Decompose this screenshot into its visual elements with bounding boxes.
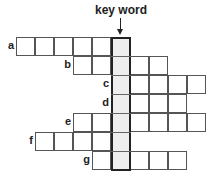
key-cell-divider [111, 151, 131, 152]
key-cell-divider [111, 94, 131, 95]
row-label: a [2, 39, 14, 51]
grid-cell[interactable] [130, 94, 149, 113]
grid-cell[interactable] [92, 56, 111, 75]
grid-cell[interactable] [73, 113, 92, 132]
key-cell-divider [111, 75, 131, 76]
grid-cell[interactable] [130, 75, 149, 94]
grid-cell[interactable] [92, 151, 111, 170]
grid-cell[interactable] [35, 37, 54, 56]
row-label: g [78, 153, 90, 165]
grid-cell[interactable] [130, 56, 149, 75]
grid-cell[interactable] [73, 132, 92, 151]
grid-cell[interactable] [187, 75, 206, 94]
key-cell-divider [111, 56, 131, 57]
grid-cell[interactable] [187, 113, 206, 132]
grid-cell[interactable] [92, 113, 111, 132]
grid-cell[interactable] [168, 151, 187, 170]
grid-cell[interactable] [149, 75, 168, 94]
grid-cell[interactable] [54, 37, 73, 56]
grid-cell[interactable] [54, 132, 73, 151]
grid-cell[interactable] [149, 151, 168, 170]
grid-cell[interactable] [130, 113, 149, 132]
key-cell-divider [111, 132, 131, 133]
grid-cell[interactable] [73, 56, 92, 75]
row-label: b [59, 58, 71, 70]
grid-cell[interactable] [149, 94, 168, 113]
key-cell-divider [111, 113, 131, 114]
grid-cell[interactable] [168, 75, 187, 94]
grid-cell[interactable] [73, 37, 92, 56]
grid-cell[interactable] [149, 56, 168, 75]
row-label: c [97, 77, 109, 89]
row-label: f [21, 134, 33, 146]
key-word-label: key word [91, 3, 151, 17]
grid-cell[interactable] [35, 132, 54, 151]
grid-cell[interactable] [130, 151, 149, 170]
grid-cell[interactable] [16, 37, 35, 56]
arrowhead-icon [117, 29, 123, 35]
grid-cell[interactable] [168, 94, 187, 113]
row-label: e [59, 115, 71, 127]
grid-cell[interactable] [92, 37, 111, 56]
row-label: d [97, 96, 109, 108]
grid-cell[interactable] [168, 113, 187, 132]
grid-cell[interactable] [149, 113, 168, 132]
grid-cell[interactable] [92, 132, 111, 151]
